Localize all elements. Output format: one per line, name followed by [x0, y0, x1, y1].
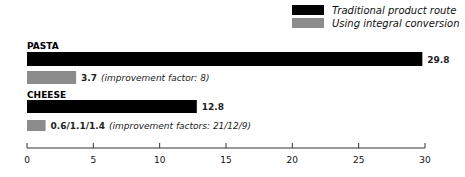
x-axis: 051015202530: [24, 143, 431, 165]
data-label-cheese-integral: 0.6/1.1/1.4: [51, 121, 105, 131]
category-label-pasta: PASTA: [27, 41, 59, 51]
data-label-pasta-traditional: 29.8: [427, 55, 449, 65]
legend-label-integral: Using integral conversion: [332, 18, 460, 29]
x-tick-label-30: 30: [419, 155, 431, 165]
x-tick-label-5: 5: [90, 155, 96, 165]
bar-cheese-traditional: [27, 100, 197, 113]
annotation-cheese: (improvement factors: 21/12/9): [109, 121, 251, 131]
data-label-pasta-integral: 3.7: [81, 73, 97, 83]
x-tick-label-0: 0: [24, 155, 30, 165]
x-tick-label-20: 20: [287, 155, 299, 165]
x-tick-label-25: 25: [353, 155, 364, 165]
legend-swatch-integral: [292, 18, 324, 28]
bar-pasta-integral: [27, 71, 76, 84]
bars: PASTA29.83.7(improvement factor: 8)CHEES…: [27, 41, 450, 131]
legend-swatch-traditional: [292, 5, 324, 15]
data-label-cheese-traditional: 12.8: [202, 102, 224, 112]
annotation-pasta: (improvement factor: 8): [101, 73, 209, 83]
x-tick-label-15: 15: [220, 155, 231, 165]
bar-cheese-integral: [27, 120, 46, 131]
x-tick-label-10: 10: [154, 155, 166, 165]
category-label-cheese: CHEESE: [27, 90, 66, 100]
bar-pasta-traditional: [27, 52, 422, 66]
chart: Traditional product route Using integral…: [0, 0, 465, 177]
legend: Traditional product route Using integral…: [292, 5, 460, 29]
legend-label-traditional: Traditional product route: [332, 5, 456, 16]
